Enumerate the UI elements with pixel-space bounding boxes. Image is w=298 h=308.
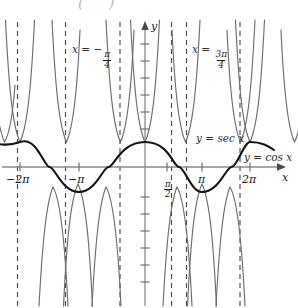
secant-branch-up: [227, 20, 255, 142]
x-tick-label-pi-over-2: π2: [163, 173, 173, 198]
secant-branch-up: [281, 30, 298, 142]
secant-branch-down: [216, 187, 245, 306]
secant-cosine-graph-figure: ( ): [0, 0, 298, 308]
x-tick-label-2pi: 2π: [242, 174, 256, 185]
x-tick-label-pi: π: [198, 174, 205, 185]
x-tick-label-minus-2pi: −2π: [6, 174, 29, 185]
secant-curve-label: y = sec x: [196, 133, 244, 144]
secant-branch-down: [163, 187, 192, 306]
fraction-pi-over-4: π4: [103, 50, 111, 70]
secant-branch-down: [92, 187, 121, 306]
fraction-denominator: 4: [103, 60, 111, 70]
secant-branch-up: [0, 20, 15, 142]
y-axis-arrow: [141, 21, 148, 30]
axes: [2, 28, 278, 306]
cosine-curve-label: y = cos x: [244, 152, 292, 163]
asymptote-label-left: x = −π4: [72, 44, 112, 70]
asymptote-label-right-prefix: x =: [192, 43, 213, 55]
y-axis-label: y: [151, 21, 157, 32]
x-axis-arrow: [277, 163, 286, 171]
x-tick-label-minus-pi: −π: [68, 174, 84, 185]
fraction-denominator: 2: [164, 189, 171, 199]
secant-branch-down: [188, 184, 217, 306]
fraction-numerator: π: [164, 180, 172, 189]
fraction-numerator: 3π: [214, 50, 228, 59]
fraction-numerator: π: [103, 50, 111, 59]
fraction-3pi-over-4: 3π4: [214, 50, 228, 70]
asymptote-label-left-prefix: x = −: [72, 43, 102, 55]
fraction-pi-over-2: π2: [164, 180, 172, 199]
fraction-denominator: 4: [217, 60, 225, 70]
x-axis-label: x: [282, 172, 288, 183]
asymptote-label-right: x = 3π4: [192, 44, 229, 70]
secant-branch-down: [64, 184, 93, 306]
secant-branch-down: [39, 187, 68, 306]
